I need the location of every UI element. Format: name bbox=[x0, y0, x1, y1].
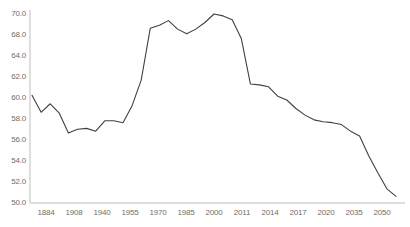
x-axis-tick-label: 1940 bbox=[94, 209, 111, 217]
line-chart: 70.068.064.062.060.058.056.054.052.050.0… bbox=[0, 0, 410, 227]
x-axis-tick-label: 2017 bbox=[290, 209, 307, 217]
x-axis-tick-label: 2000 bbox=[206, 209, 223, 217]
x-axis-tick-label: 1884 bbox=[38, 209, 55, 217]
x-axis-tick-label: 2011 bbox=[234, 209, 250, 217]
x-axis-tick-label: 1908 bbox=[66, 209, 83, 217]
x-axis-tick-label: 1955 bbox=[122, 209, 139, 217]
x-axis-tick-label: 1970 bbox=[150, 209, 167, 217]
x-axis-tick-label: 2020 bbox=[318, 209, 335, 217]
x-axis-tick-label: 2050 bbox=[374, 209, 391, 217]
x-axis-tick-label: 2035 bbox=[346, 209, 363, 217]
x-axis-tick-labels: 1884190819401955197019852000201120142017… bbox=[0, 0, 410, 227]
x-axis-tick-label: 2014 bbox=[262, 209, 279, 217]
x-axis-tick-label: 1985 bbox=[178, 209, 195, 217]
